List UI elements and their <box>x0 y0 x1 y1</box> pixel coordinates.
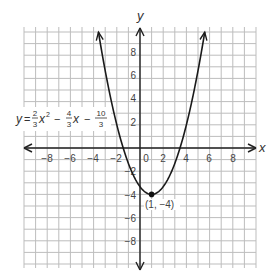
eq-frac1-num: 2 <box>33 109 38 118</box>
y-tick-label: −8 <box>125 236 137 247</box>
x-tick-label: 4 <box>183 153 189 164</box>
y-tick-labels: 8 6 4 2 −2 −4 −6 −8 <box>125 47 137 247</box>
eq-minus: − <box>84 113 90 125</box>
x-tick-label: −2 <box>110 153 122 164</box>
vertex-label: (1, −4) <box>145 199 174 210</box>
eq-frac2-den: 3 <box>67 120 72 129</box>
x-axis-label: x <box>258 140 266 155</box>
eq-sup: 2 <box>46 111 50 118</box>
vertex-point <box>149 192 155 198</box>
x-tick-label: −6 <box>64 153 76 164</box>
y-tick-label: 4 <box>130 93 136 104</box>
x-tick-label: 6 <box>206 153 212 164</box>
x-tick-label: −4 <box>87 153 99 164</box>
y-tick-label: −6 <box>125 213 137 224</box>
eq-frac1-den: 3 <box>33 120 38 129</box>
y-tick-label: 2 <box>130 117 136 128</box>
eq-frac2-num: 4 <box>67 109 72 118</box>
eq-y: y <box>15 112 23 126</box>
eq-x2: x <box>38 112 46 126</box>
eq-frac3-num: 10 <box>97 109 106 118</box>
eq-equals: = <box>24 113 30 125</box>
eq-x: x <box>72 112 80 126</box>
y-axis-label: y <box>136 8 145 23</box>
eq-minus: − <box>54 113 60 125</box>
y-tick-label: −4 <box>125 190 137 201</box>
y-axis <box>136 28 144 270</box>
x-tick-label: −8 <box>41 153 53 164</box>
x-tick-labels: −8 −6 −4 −2 0 2 4 6 8 <box>41 153 236 164</box>
y-tick-label: 6 <box>130 70 136 81</box>
x-tick-label: 0 <box>143 153 149 164</box>
eq-frac3-den: 3 <box>99 120 104 129</box>
equation-label: y = 2 3 x 2 − 4 3 x − 10 3 <box>15 107 111 131</box>
y-tick-label: 8 <box>130 47 136 58</box>
x-tick-label: 8 <box>230 153 236 164</box>
x-tick-label: 2 <box>160 153 166 164</box>
coordinate-plane: y x −8 −6 −4 −2 0 2 4 6 8 8 6 4 2 −2 −4 … <box>0 0 277 278</box>
